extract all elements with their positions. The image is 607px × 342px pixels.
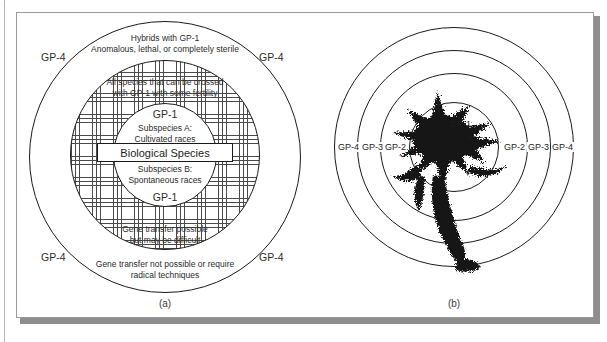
outer-ring-bottom-line1: Gene transfer not possible or require: [79, 259, 251, 270]
panel-b: GP-4 GP-3 GP-2 GP-2 GP-3 GP-4 GP-1 (b): [313, 13, 595, 319]
subspecies-b-line1: Subspecies B:: [118, 164, 212, 175]
outer-ring-description: Hybrids with GP-1 Anomalous, lethal, or …: [85, 33, 245, 54]
outer-ring-bottom-description: Gene transfer not possible or require ra…: [79, 259, 251, 280]
panel-a-caption: (a): [17, 298, 313, 309]
hatched-top-line2: with GP-1 with some fertility: [97, 88, 233, 99]
outer-ring-bottom-line2: radical techniques: [79, 270, 251, 281]
gp4-label-right: GP-4: [551, 142, 574, 152]
gp3-label-left: GP-3: [361, 142, 384, 152]
outer-ring-description-line2: Anomalous, lethal, or completely sterile: [85, 44, 245, 55]
subspecies-a-block: Subspecies A: Cultivated races: [118, 123, 212, 144]
outer-ring-description-line1: Hybrids with GP-1: [85, 33, 245, 44]
gp1-label-top: GP-1: [132, 108, 198, 121]
figure-frame: GP-4 GP-4 GP-4 GP-4 Hybrids with GP-1 An…: [16, 12, 594, 318]
subspecies-a-line1: Subspecies A:: [118, 123, 212, 134]
hatched-bottom-line2: but may be difficult: [97, 235, 233, 246]
biological-species-label: Biological Species: [120, 147, 209, 159]
hatched-ring-bottom-description: Gene transfer possible but may be diffic…: [97, 224, 233, 245]
gene-pool-target-diagram: GP-4 GP-3 GP-2 GP-2 GP-3 GP-4 GP-1: [321, 19, 587, 293]
hatched-top-line1: All species that can be crossed: [97, 77, 233, 88]
gp1-label-bottom: GP-1: [132, 191, 198, 204]
panel-b-caption: (b): [313, 298, 595, 309]
gp1-center-label: GP-1: [449, 119, 472, 129]
biological-species-box: Biological Species: [97, 143, 233, 162]
scan-top-bleed-text: · · · · ·: [0, 0, 607, 7]
species-distribution-blot: [373, 79, 543, 279]
gp4-label-bottom-right: GP-4: [259, 251, 284, 264]
gp3-label-right: GP-3: [527, 142, 550, 152]
gp4-label-top-left: GP-4: [41, 51, 66, 64]
page-gutter-rule: [4, 0, 5, 342]
gp4-label-left: GP-4: [337, 142, 360, 152]
gp2-label-left: GP-2: [384, 142, 407, 152]
gene-pool-concept-diagram: GP-4 GP-4 GP-4 GP-4 Hybrids with GP-1 An…: [23, 15, 307, 297]
panel-a: GP-4 GP-4 GP-4 GP-4 Hybrids with GP-1 An…: [17, 13, 313, 319]
gp4-label-bottom-left: GP-4: [41, 251, 66, 264]
hatched-bottom-line1: Gene transfer possible: [97, 224, 233, 235]
subspecies-b-block: Subspecies B: Spontaneous races: [118, 164, 212, 185]
hatched-ring-top-description: All species that can be crossed with GP-…: [97, 77, 233, 98]
gp2-label-right: GP-2: [503, 142, 526, 152]
gp4-label-top-right: GP-4: [259, 51, 284, 64]
subspecies-b-line2: Spontaneous races: [118, 175, 212, 186]
